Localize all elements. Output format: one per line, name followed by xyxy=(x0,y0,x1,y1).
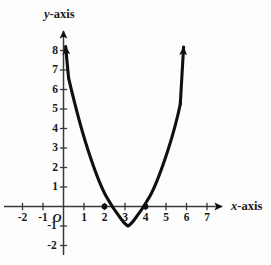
root-point-x4 xyxy=(143,204,149,210)
y-tick-label-1: 1 xyxy=(52,181,58,193)
y-tick-label-4: 4 xyxy=(52,123,58,135)
x-tick-label-4: 4 xyxy=(143,212,149,224)
x-axis-label: x-axis xyxy=(231,200,262,213)
x-tick-label--2: -2 xyxy=(18,212,28,224)
y-tick-label-3: 3 xyxy=(52,142,58,154)
x-tick-label-3: 3 xyxy=(122,212,128,224)
y-tick-label-6: 6 xyxy=(52,84,58,96)
x-tick-label-7: 7 xyxy=(204,212,210,224)
y-axis-label: y-axis xyxy=(44,8,75,21)
x-tick-label-6: 6 xyxy=(184,212,190,224)
graph-figure: y-axis x-axis O -2 -1 1 2 3 4 5 6 7 -2 -… xyxy=(0,0,271,265)
x-tick-label-1: 1 xyxy=(81,212,87,224)
y-tick-label--1: -1 xyxy=(47,220,57,232)
y-tick-label-7: 7 xyxy=(52,64,58,76)
curve-left-arrowhead xyxy=(66,47,69,79)
x-tick-label-5: 5 xyxy=(163,212,169,224)
y-tick-label--2: -2 xyxy=(47,240,57,252)
parabola-plot xyxy=(0,0,271,265)
y-tick-label-8: 8 xyxy=(52,45,58,57)
root-point-x2 xyxy=(102,204,108,210)
y-tick-label-5: 5 xyxy=(52,103,58,115)
curve-right-arrowhead xyxy=(180,47,183,104)
x-tick-label-2: 2 xyxy=(102,212,108,224)
y-tick-label-2: 2 xyxy=(52,162,58,174)
